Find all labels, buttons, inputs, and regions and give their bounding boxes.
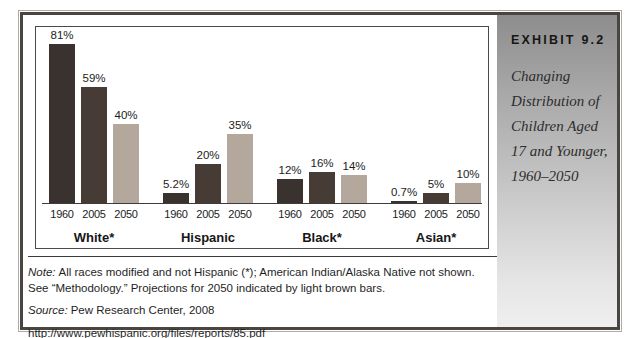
bar-value-label: 81% — [50, 29, 73, 41]
year-tick-label: 1960 — [277, 208, 303, 220]
year-tick-label: 1960 — [49, 208, 75, 220]
source-text: Pew Research Center, 2008 — [71, 304, 215, 316]
bar-value-label: 20% — [196, 149, 219, 161]
x-axis-year-labels: 1960200520501960200520501960200520501960… — [42, 208, 482, 220]
group-label-asian: Asian* — [391, 230, 481, 245]
chart-box: 81%59%40%5.2%20%35%12%16%14%0.7%5%10% 19… — [35, 26, 489, 249]
year-tick-label: 2005 — [309, 208, 335, 220]
year-tick-label: 2005 — [81, 208, 107, 220]
bar-group-black: 12%16%14% — [277, 27, 367, 203]
exhibit-sidebar: EXHIBIT 9.2 Changing Distribution of Chi… — [497, 15, 617, 327]
bar-hispanic-2050: 35% — [227, 134, 253, 203]
year-tick-label: 2005 — [423, 208, 449, 220]
year-tick-group-hispanic: 196020052050 — [163, 208, 253, 220]
exhibit-title: Changing Distribution of Children Aged 1… — [511, 64, 613, 189]
notes-section: Note:All races modified and not Hispanic… — [28, 256, 499, 338]
source-prefix: Source: — [28, 304, 68, 316]
bar-asian-2005: 5% — [423, 193, 449, 203]
source-url: http://www.pewhispanic.org/files/reports… — [28, 325, 499, 338]
year-tick-label: 2050 — [227, 208, 253, 220]
bar-group-asian: 0.7%5%10% — [391, 27, 481, 203]
bar-value-label: 10% — [456, 168, 479, 180]
bar-black-1960: 12% — [277, 179, 303, 203]
bar-value-label: 16% — [310, 157, 333, 169]
bar-group-hispanic: 5.2%20%35% — [163, 27, 253, 203]
group-label-black: Black* — [277, 230, 367, 245]
bar-chart-plot: 81%59%40%5.2%20%35%12%16%14%0.7%5%10% — [42, 27, 482, 204]
note-line-2: See “Methodology.” Projections for 2050 … — [28, 280, 499, 296]
bar-black-2050: 14% — [341, 175, 367, 203]
bar-value-label: 14% — [342, 160, 365, 172]
bar-white-1960: 81% — [49, 44, 75, 203]
bar-value-label: 12% — [278, 164, 301, 176]
exhibit-frame: 81%59%40%5.2%20%35%12%16%14%0.7%5%10% 19… — [20, 12, 620, 330]
bar-value-label: 40% — [114, 109, 137, 121]
year-tick-group-white: 196020052050 — [49, 208, 139, 220]
year-tick-label: 2050 — [455, 208, 481, 220]
bar-value-label: 5.2% — [163, 178, 189, 190]
bar-hispanic-2005: 20% — [195, 164, 221, 203]
year-tick-group-black: 196020052050 — [277, 208, 367, 220]
group-label-hispanic: Hispanic — [163, 230, 253, 245]
year-tick-label: 2050 — [341, 208, 367, 220]
year-tick-label: 2005 — [195, 208, 221, 220]
bar-value-label: 59% — [82, 72, 105, 84]
x-axis-group-labels: White*HispanicBlack*Asian* — [42, 230, 482, 245]
exhibit-number-label: EXHIBIT 9.2 — [511, 33, 611, 47]
source-line: Source:Pew Research Center, 2008 — [28, 302, 499, 318]
bar-value-label: 5% — [428, 178, 445, 190]
note-line-1: Note:All races modified and not Hispanic… — [28, 264, 499, 280]
bar-asian-1960: 0.7% — [391, 201, 417, 203]
bar-value-label: 0.7% — [391, 186, 417, 198]
note-prefix: Note: — [28, 266, 56, 278]
bar-white-2050: 40% — [113, 124, 139, 203]
bar-white-2005: 59% — [81, 87, 107, 203]
year-tick-label: 1960 — [163, 208, 189, 220]
group-label-white: White* — [49, 230, 139, 245]
bar-hispanic-1960: 5.2% — [163, 193, 189, 203]
bar-group-white: 81%59%40% — [49, 27, 139, 203]
bar-value-label: 35% — [228, 119, 251, 131]
note-text-1: All races modified and not Hispanic (*);… — [59, 266, 475, 278]
year-tick-group-asian: 196020052050 — [391, 208, 481, 220]
year-tick-label: 1960 — [391, 208, 417, 220]
year-tick-label: 2050 — [113, 208, 139, 220]
bar-black-2005: 16% — [309, 172, 335, 203]
bar-asian-2050: 10% — [455, 183, 481, 203]
